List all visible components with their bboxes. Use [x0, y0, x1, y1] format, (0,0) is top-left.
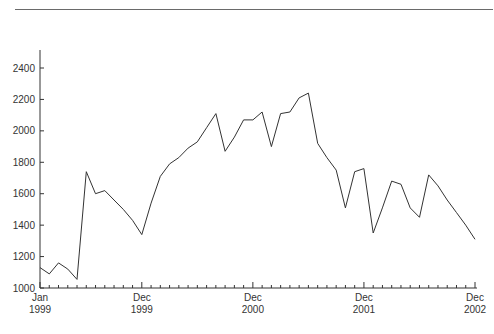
y-tick-label: 1400 [13, 220, 36, 231]
x-tick-label-year: 2002 [464, 304, 487, 315]
line-chart: 10001200140016001800200022002400 Jan1999… [0, 0, 494, 334]
x-tick-label-year: 1999 [29, 304, 52, 315]
y-axis: 10001200140016001800200022002400 [13, 50, 44, 294]
y-tick-label: 1600 [13, 188, 36, 199]
y-tick-label: 2400 [13, 63, 36, 74]
y-tick-label: 2200 [13, 94, 36, 105]
x-tick-label-month: Dec [133, 292, 151, 303]
y-tick-label: 2000 [13, 125, 36, 136]
x-tick-label-year: 2001 [353, 304, 376, 315]
data-series [40, 93, 475, 279]
x-tick-label-month: Dec [355, 292, 373, 303]
x-tick-label-month: Dec [466, 292, 484, 303]
y-tick-label: 1800 [13, 157, 36, 168]
x-axis: Jan1999Dec1999Dec2000Dec2001Dec2002 [29, 282, 487, 315]
x-tick-label-year: 1999 [131, 304, 154, 315]
x-tick-label-year: 2000 [242, 304, 265, 315]
series-line [40, 93, 475, 279]
x-tick-label-month: Dec [244, 292, 262, 303]
x-tick-label-month: Jan [32, 292, 48, 303]
y-tick-label: 1200 [13, 251, 36, 262]
